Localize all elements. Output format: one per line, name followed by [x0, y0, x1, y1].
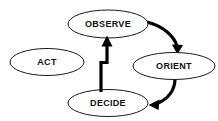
observe-label: OBSERVE	[85, 19, 131, 29]
observe-to-orient-line	[147, 22, 177, 46]
node-observe[interactable]: OBSERVE	[68, 10, 148, 38]
decide-to-observe-line	[101, 45, 107, 92]
decide-label: DECIDE	[90, 98, 126, 108]
diagram-canvas: OBSERVE ACT ORIENT DECIDE	[0, 0, 218, 121]
edge-observe-to-orient	[147, 22, 183, 55]
edge-orient-to-decide	[149, 79, 176, 110]
orient-to-decide-arrowhead	[149, 100, 160, 111]
ooda-loop-diagram: OBSERVE ACT ORIENT DECIDE	[0, 0, 218, 121]
orient-label: ORIENT	[156, 61, 192, 71]
orient-to-decide-line	[158, 79, 175, 103]
node-decide[interactable]: DECIDE	[68, 90, 148, 117]
edge-decide-to-observe	[101, 36, 113, 93]
node-act[interactable]: ACT	[10, 49, 84, 76]
node-orient[interactable]: ORIENT	[133, 53, 215, 80]
act-label: ACT	[37, 57, 57, 67]
